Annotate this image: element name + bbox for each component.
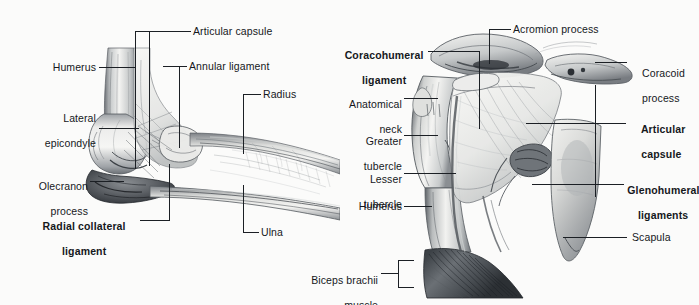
leader-articular-capsule-v1 xyxy=(135,31,136,169)
label-lateral-epicondyle-line1: Lateral xyxy=(63,112,96,124)
leader-annular-ligament-v xyxy=(179,66,180,148)
label-glenohumeral-ligaments: Glenohumeral ligaments xyxy=(615,171,699,234)
label-coracohumeral-line1: Coracohumeral xyxy=(345,49,424,61)
leader-coracohumeral-v xyxy=(479,51,480,129)
label-annular-ligament: Annular ligament xyxy=(189,60,269,73)
leader-biceps-brachii-bracket-bottom xyxy=(398,287,414,288)
anatomy-figure: Articular capsule Annular ligament Humer… xyxy=(0,0,699,305)
leader-scapula xyxy=(563,237,627,238)
leader-biceps-brachii-bracket-top xyxy=(398,260,414,261)
leader-lesser-tubercle xyxy=(404,173,456,174)
leader-radial-collateral-v xyxy=(169,164,170,221)
leader-annular-ligament-h xyxy=(163,66,187,67)
leader-ulna-v xyxy=(243,185,244,233)
leader-greater-tubercle xyxy=(404,135,438,136)
leader-articular-capsule-top xyxy=(135,31,163,32)
leader-ulna-h xyxy=(243,232,259,233)
label-radial-collateral-ligament: Radial collateral ligament xyxy=(18,207,138,270)
label-acromion-process: Acromion process xyxy=(513,23,599,36)
leader-articular-capsule-shoulder-h xyxy=(526,123,626,124)
label-coracohumeral-line2: ligament xyxy=(362,74,406,86)
label-articular-capsule-elbow: Articular capsule xyxy=(193,25,272,38)
leader-articular-capsule-shoulder-v xyxy=(595,85,596,197)
leader-biceps-brachii-bracket-v xyxy=(398,260,399,287)
label-glenohumeral-line2: ligaments xyxy=(638,209,688,221)
label-greater-tubercle-line1: Greater xyxy=(366,135,402,147)
leader-radial-collateral-h xyxy=(140,220,170,221)
label-anatomical-neck-line1: Anatomical xyxy=(349,98,402,110)
label-ulna: Ulna xyxy=(261,226,283,239)
leader-olecranon-process xyxy=(90,181,124,182)
label-biceps-brachii-line2: muscle xyxy=(344,299,378,305)
label-articular-capsule-shoulder-line1: Articular xyxy=(641,123,686,135)
label-coracoid-line1: Coracoid xyxy=(642,67,685,79)
label-articular-capsule-shoulder: Articular capsule xyxy=(629,110,685,173)
leader-radius-v xyxy=(243,94,244,154)
label-glenohumeral-line1: Glenohumeral xyxy=(627,184,699,196)
label-lateral-epicondyle-line2: epicondyle xyxy=(45,137,96,149)
label-scapula: Scapula xyxy=(632,231,671,244)
leader-acromion-process-v xyxy=(489,29,490,64)
leader-lateral-epicondyle xyxy=(99,128,139,129)
label-lesser-tubercle: Lesser tubercle xyxy=(322,160,402,223)
leader-coracohumeral xyxy=(428,51,480,52)
leader-radius-h xyxy=(243,94,261,95)
leader-articular-capsule-h xyxy=(163,31,191,32)
label-lesser-tubercle-line1: Lesser xyxy=(370,173,402,185)
leader-humerus xyxy=(99,67,135,68)
label-coracoid-process: Coracoid process xyxy=(630,54,685,117)
label-olecranon-process-line1: Olecranon xyxy=(39,180,88,192)
label-lateral-epicondyle: Lateral epicondyle xyxy=(8,99,96,162)
label-radial-collateral-line1: Radial collateral xyxy=(43,220,126,232)
label-radius: Radius xyxy=(263,88,296,101)
leader-acromion-process-h xyxy=(489,29,511,30)
leader-humerus-shoulder xyxy=(404,206,432,207)
leader-glenohumeral-ligaments xyxy=(532,184,624,185)
label-articular-capsule-shoulder-line2: capsule xyxy=(641,148,681,160)
leader-coracoid-process xyxy=(595,62,627,63)
shoulder-illustration xyxy=(395,0,655,305)
label-humerus-shoulder: Humerus xyxy=(322,200,402,213)
leader-biceps-brachii-h xyxy=(381,273,399,274)
label-humerus-elbow: Humerus xyxy=(18,61,96,74)
label-radial-collateral-line2: ligament xyxy=(62,245,106,257)
label-biceps-brachii-line1: Biceps brachii xyxy=(311,274,378,286)
label-biceps-brachii-muscle: Biceps brachii muscle xyxy=(280,261,378,305)
label-coracoid-line2: process xyxy=(642,92,679,104)
leader-articular-capsule-v2 xyxy=(149,31,150,166)
